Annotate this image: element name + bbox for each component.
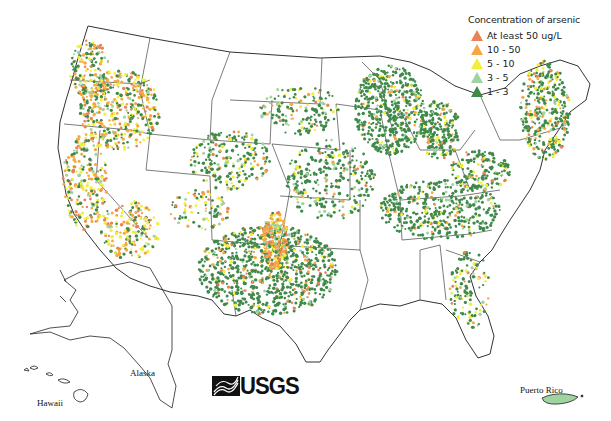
legend-item-10-50: 10 - 50 xyxy=(468,42,608,56)
hawaii-label: Hawaii xyxy=(37,398,63,408)
legend: Concentration of arsenic At least 50 ug/… xyxy=(468,14,608,98)
triangle-icon xyxy=(471,30,483,41)
usgs-wordmark: USGS xyxy=(240,372,299,400)
triangle-icon xyxy=(471,44,483,55)
alaska-outline xyxy=(30,262,176,408)
triangle-icon xyxy=(471,86,483,97)
legend-item-50plus: At least 50 ug/L xyxy=(468,28,608,42)
legend-item-1-3: 1 - 3 xyxy=(468,84,608,98)
puerto-rico-outline xyxy=(542,394,583,404)
legend-item-5-10: 5 - 10 xyxy=(468,56,608,70)
usgs-logo: USGS xyxy=(212,372,304,400)
legend-title: Concentration of arsenic xyxy=(468,14,608,25)
triangle-icon xyxy=(471,72,483,83)
alaska-label: Alaska xyxy=(130,368,155,378)
usgs-wave-icon xyxy=(212,376,240,396)
hawaii-outline xyxy=(24,366,88,402)
triangle-icon xyxy=(471,58,483,69)
legend-item-3-5: 3 - 5 xyxy=(468,70,608,84)
puerto-rico-label: Puerto Rico xyxy=(520,385,563,395)
